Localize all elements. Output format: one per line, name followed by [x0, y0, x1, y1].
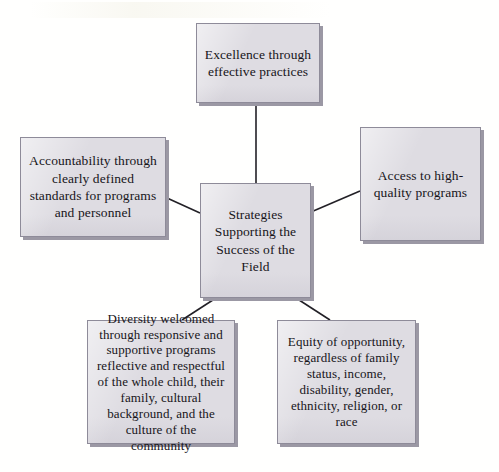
node-diversity-label: Diversity welcomed through responsive an… [88, 311, 234, 454]
node-center-strategies[interactable]: Strategies Supporting the Success of the… [200, 183, 311, 298]
connector-center-to-right [311, 191, 360, 212]
connector-center-to-bottom-right [296, 298, 330, 320]
node-access-label: Access to high-quality programs [361, 167, 480, 202]
node-diversity[interactable]: Diversity welcomed through responsive an… [87, 320, 235, 444]
node-accountability-label: Accountability through clearly defined s… [21, 152, 165, 221]
connector-center-to-left [167, 198, 200, 213]
diagram-canvas: Excellence through effective practices A… [0, 0, 499, 472]
node-excellence-label: Excellence through effective practices [197, 46, 319, 81]
node-equity-label: Equity of opportunity, regardless of fam… [278, 334, 415, 429]
node-center-strategies-label: Strategies Supporting the Success of the… [201, 206, 310, 275]
node-equity[interactable]: Equity of opportunity, regardless of fam… [277, 320, 416, 444]
node-excellence[interactable]: Excellence through effective practices [196, 23, 320, 103]
node-access[interactable]: Access to high-quality programs [360, 127, 481, 241]
node-accountability[interactable]: Accountability through clearly defined s… [20, 137, 166, 237]
